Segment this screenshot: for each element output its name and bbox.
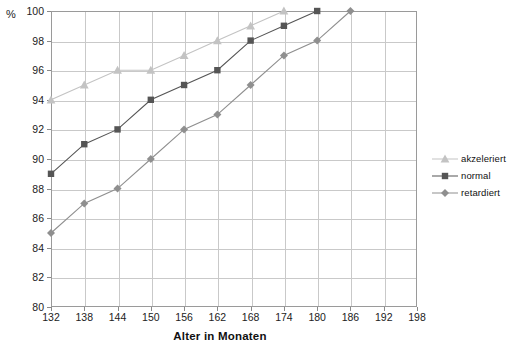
y-axis-tick-label: 100 — [0, 5, 44, 17]
y-axis-tick-label: 84 — [0, 242, 44, 254]
x-axis-tick-mark — [118, 307, 119, 311]
y-axis-tick-mark — [47, 159, 51, 160]
legend-item-normal[interactable]: normal — [432, 167, 508, 184]
gridline-horizontal — [52, 249, 416, 250]
gridline-vertical — [119, 12, 120, 306]
gridline-vertical — [351, 12, 352, 306]
legend-swatch-diamond-icon — [432, 187, 458, 199]
line-chart: % 80828486889092949698100 13213814415015… — [0, 0, 510, 354]
plot-area — [51, 11, 417, 307]
y-axis-tick-mark — [47, 41, 51, 42]
gridline-horizontal — [52, 42, 416, 43]
y-axis-tick-mark — [47, 70, 51, 71]
x-axis-tick-mark — [251, 307, 252, 311]
y-axis-tick-label: 86 — [0, 212, 44, 224]
y-axis-tick-label: 92 — [0, 123, 44, 135]
y-axis-tick-label: 82 — [0, 271, 44, 283]
y-axis-tick-label: 88 — [0, 183, 44, 195]
gridline-vertical — [85, 12, 86, 306]
legend-item-retardiert[interactable]: retardiert — [432, 184, 508, 201]
y-axis-tick-mark — [47, 11, 51, 12]
chart-legend: akzeleriertnormalretardiert — [432, 150, 508, 201]
y-axis-tick-mark — [47, 248, 51, 249]
gridline-horizontal — [52, 160, 416, 161]
x-axis-tick-mark — [84, 307, 85, 311]
legend-item-akzeleriert[interactable]: akzeleriert — [432, 150, 508, 167]
gridline-vertical — [385, 12, 386, 306]
x-axis-tick-mark — [151, 307, 152, 311]
y-axis-tick-mark — [47, 189, 51, 190]
x-axis-title: Alter in Monaten — [0, 330, 440, 342]
legend-label: normal — [458, 170, 491, 181]
gridline-horizontal — [52, 190, 416, 191]
y-axis-tick-label: 90 — [0, 153, 44, 165]
x-axis-tick-mark — [51, 307, 52, 311]
gridline-horizontal — [52, 278, 416, 279]
x-axis-tick-mark — [417, 307, 418, 311]
y-axis-tick-label: 96 — [0, 64, 44, 76]
gridline-horizontal — [52, 71, 416, 72]
y-axis-tick-label: 98 — [0, 35, 44, 47]
x-axis-tick-mark — [184, 307, 185, 311]
y-axis-tick-mark — [47, 277, 51, 278]
gridline-horizontal — [52, 219, 416, 220]
x-axis-tick-mark — [384, 307, 385, 311]
y-axis-tick-label: 94 — [0, 94, 44, 106]
gridline-horizontal — [52, 130, 416, 131]
x-axis-tick-mark — [284, 307, 285, 311]
gridline-vertical — [285, 12, 286, 306]
y-axis-tick-mark — [47, 218, 51, 219]
x-axis-tick-mark — [350, 307, 351, 311]
legend-swatch-square-icon — [432, 170, 458, 182]
legend-swatch-triangle-icon — [432, 153, 458, 165]
legend-label: akzeleriert — [458, 153, 506, 164]
gridline-vertical — [252, 12, 253, 306]
y-axis-tick-mark — [47, 129, 51, 130]
y-axis-tick-mark — [47, 100, 51, 101]
x-axis-tick-mark — [217, 307, 218, 311]
legend-label: retardiert — [458, 187, 500, 198]
gridline-horizontal — [52, 101, 416, 102]
gridline-vertical — [185, 12, 186, 306]
x-axis-tick-mark — [317, 307, 318, 311]
x-axis-tick-label: 198 — [397, 311, 437, 323]
gridline-vertical — [218, 12, 219, 306]
gridline-vertical — [318, 12, 319, 306]
gridline-vertical — [152, 12, 153, 306]
